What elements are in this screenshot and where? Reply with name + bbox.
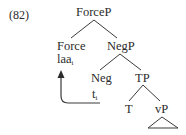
- force-word: laa: [57, 52, 72, 66]
- example-number: (82): [9, 9, 29, 22]
- force-word-index: i: [72, 59, 74, 67]
- node-vp: vP: [155, 103, 168, 116]
- node-trace: ti: [92, 88, 97, 105]
- node-neg: Neg: [91, 72, 112, 85]
- edge-forcep-force: [71, 20, 94, 38]
- edge-tp-vp: [143, 85, 160, 101]
- edge-forcep-negp: [94, 20, 117, 38]
- edge-negp-tp: [120, 54, 141, 70]
- edge-negp-neg: [100, 54, 120, 70]
- node-t: T: [125, 103, 133, 116]
- node-forcep: ForceP: [76, 6, 111, 19]
- node-force-word: laai: [57, 53, 74, 70]
- vp-triangle: [148, 117, 178, 128]
- trace-index: i: [95, 94, 97, 102]
- arrowhead-icon: [58, 70, 65, 78]
- node-negp: NegP: [107, 40, 135, 53]
- node-tp: TP: [135, 72, 150, 85]
- edge-tp-t: [129, 85, 143, 101]
